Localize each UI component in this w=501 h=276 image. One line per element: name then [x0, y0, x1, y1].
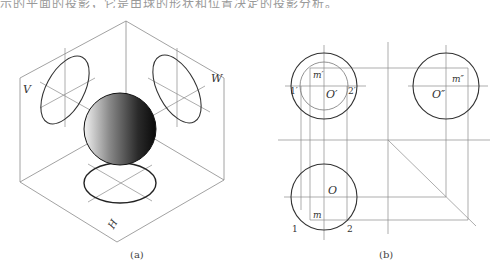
label-m: m — [313, 210, 322, 220]
projection-lines — [278, 42, 490, 240]
label-1-prime: 1′ — [290, 86, 298, 96]
w-plane-label: W — [211, 72, 224, 85]
caption-b: (b) — [379, 249, 393, 260]
caption-a: (a) — [130, 249, 144, 260]
sphere — [84, 93, 156, 165]
v-plane-label: V — [23, 83, 32, 96]
h-plane-label: H — [105, 217, 120, 231]
h-plane-projection — [84, 163, 156, 203]
label-m-double-prime: m″ — [452, 74, 465, 84]
label-2: 2 — [347, 224, 353, 234]
label-o-double-prime: O″ — [432, 88, 446, 101]
label-2-prime: 2′ — [348, 86, 356, 96]
figure-canvas: V W H (a) — [0, 0, 501, 276]
label-o: O — [328, 184, 337, 197]
label-m-prime: m′ — [313, 70, 324, 80]
label-o-prime: O′ — [326, 88, 338, 101]
figure-b: m′ 1′ O′ 2′ m″ O″ O m 1 2 (b) — [278, 42, 490, 260]
figure-a: V W H (a) — [20, 21, 224, 260]
label-1: 1 — [292, 224, 298, 234]
